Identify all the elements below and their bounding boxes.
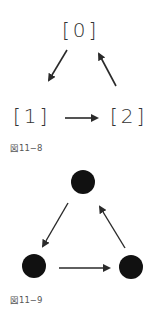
node-bottom-right xyxy=(119,255,143,279)
figure-a-edges xyxy=(49,50,116,118)
arrow-top-to-bottom-left xyxy=(43,203,68,246)
node-label-1: [1] xyxy=(13,104,50,128)
figure-caption-11-8: 図11−8 xyxy=(10,141,42,153)
figure-b-nodes xyxy=(22,170,143,279)
arrow-0-to-1 xyxy=(49,50,67,80)
node-label-0: [0] xyxy=(62,18,99,42)
node-top xyxy=(71,170,95,194)
node-bottom-left xyxy=(22,254,46,278)
arrow-bottom-right-to-top xyxy=(100,207,125,248)
diagram-canvas xyxy=(0,0,159,327)
figure-b-edges xyxy=(43,203,125,268)
figure-caption-11-9: 図11−9 xyxy=(10,293,42,305)
node-label-2: [2] xyxy=(110,104,147,128)
arrow-2-to-0 xyxy=(99,54,116,86)
